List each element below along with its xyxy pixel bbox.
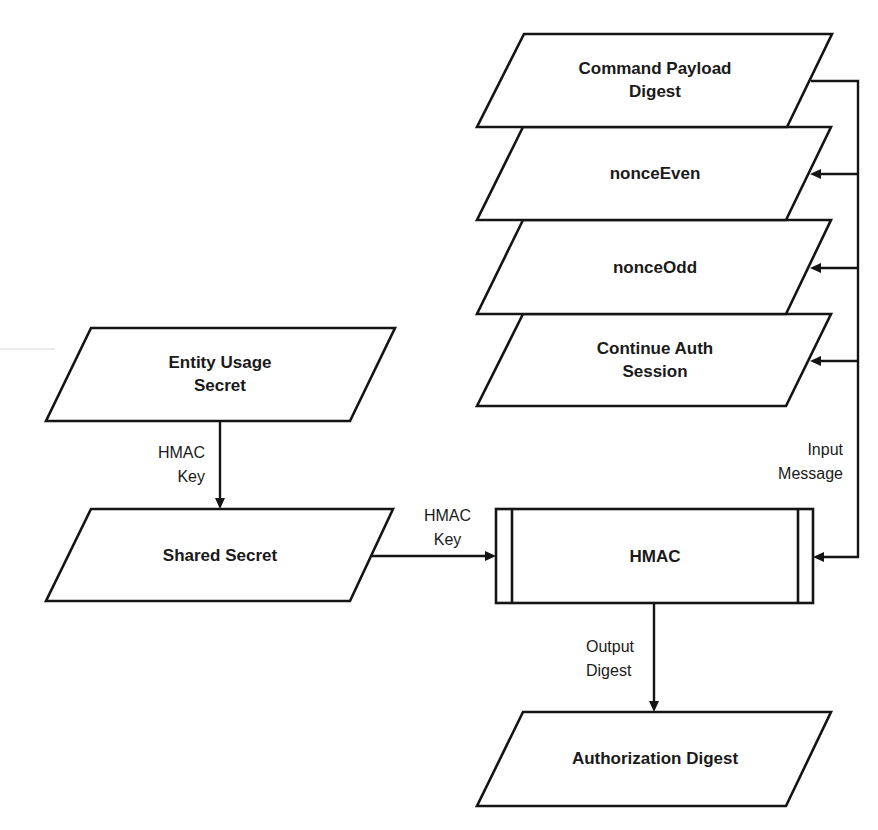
node-nonce-even-label: nonceEven [530, 162, 780, 185]
edge-label-shared-to-hmac: HMAC Key [410, 504, 485, 552]
node-entity-usage-secret-label: Entity Usage Secret [95, 351, 345, 397]
node-shared-secret-label: Shared Secret [95, 544, 345, 567]
edge-label-entity-to-shared: HMAC Key [130, 441, 205, 489]
node-continue-auth-session-label: Continue Auth Session [530, 337, 780, 383]
node-authorization-digest-label: Authorization Digest [530, 747, 780, 770]
arrowhead-continue-auth [810, 356, 821, 366]
node-hmac-label: HMAC [530, 545, 780, 568]
node-nonce-odd-label: nonceOdd [530, 256, 780, 279]
arrowhead-input-message-to-hmac [813, 552, 824, 562]
arrowhead-nonce-odd [810, 263, 821, 273]
arrowhead-shared-secret [215, 498, 225, 509]
node-command-payload-digest-label: Command Payload Digest [530, 57, 780, 103]
edge-label-input-message: Input Message [753, 438, 843, 486]
arrowhead-authorization-digest [649, 701, 659, 712]
arrowhead-hmac-key [485, 551, 496, 561]
edge-label-output-digest: Output Digest [586, 635, 656, 683]
diagram-canvas [0, 0, 878, 830]
arrowhead-nonce-even [810, 169, 821, 179]
